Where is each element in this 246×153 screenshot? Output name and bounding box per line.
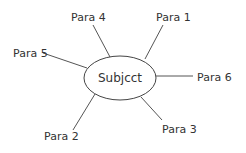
connector-para-5 [43,53,87,68]
connector-para-3 [141,97,162,120]
connector-para-4 [93,25,110,57]
connector-para-1 [145,25,163,59]
diagram-svg: Subjcct Para 1 Para 2 Para 3 Para 4 Para… [0,0,246,153]
branch-label-para-2: Para 2 [44,130,79,143]
mind-map-diagram: Subjcct Para 1 Para 2 Para 3 Para 4 Para… [0,0,246,153]
branch-label-para-4: Para 4 [71,11,106,24]
center-node-label: Subjcct [98,71,142,85]
branch-label-para-3: Para 3 [162,123,197,136]
branch-label-para-5: Para 5 [13,47,48,60]
connector-para-2 [73,94,95,130]
branch-label-para-6: Para 6 [197,71,232,84]
branch-label-para-1: Para 1 [156,11,191,24]
